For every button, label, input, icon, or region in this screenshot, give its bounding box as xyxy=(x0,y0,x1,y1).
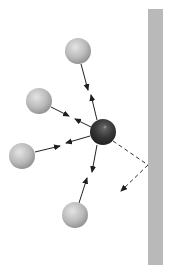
particle-bottom xyxy=(62,202,88,228)
force-arrows xyxy=(35,64,97,203)
particle-left xyxy=(9,143,35,169)
particle-top xyxy=(65,38,91,64)
particle-diagram xyxy=(0,0,171,271)
diagram-canvas xyxy=(0,0,171,271)
reflection-path xyxy=(113,141,148,191)
particle-upper-left xyxy=(26,88,52,114)
central-particle xyxy=(90,119,116,145)
wall xyxy=(148,9,163,265)
central-particle-highlight xyxy=(104,126,107,129)
